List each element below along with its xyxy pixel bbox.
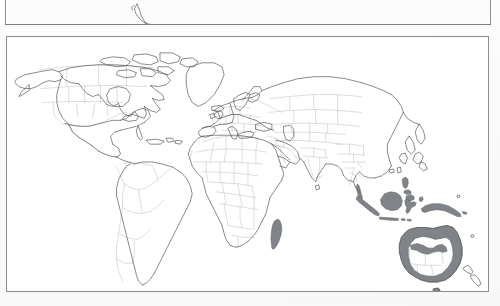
previous-figure-fragment	[6, 0, 492, 25]
region-lesser-sunda-islands	[401, 219, 405, 221]
figure-page: #808488 #55585b #b9bcbf equirectangular	[0, 0, 500, 306]
region-lesser-sunda-islands-2	[407, 219, 411, 221]
world-map-panel	[6, 36, 489, 292]
map-background	[7, 37, 488, 291]
world-map-graphic	[7, 37, 488, 291]
highlight-color-value: #808488	[0, 0, 1, 1]
region-legend-data: #808488 #55585b #b9bcbf equirectangular	[0, 0, 1, 1]
previous-figure-frame	[5, 0, 491, 25]
region-philippines-luzon	[402, 177, 408, 189]
